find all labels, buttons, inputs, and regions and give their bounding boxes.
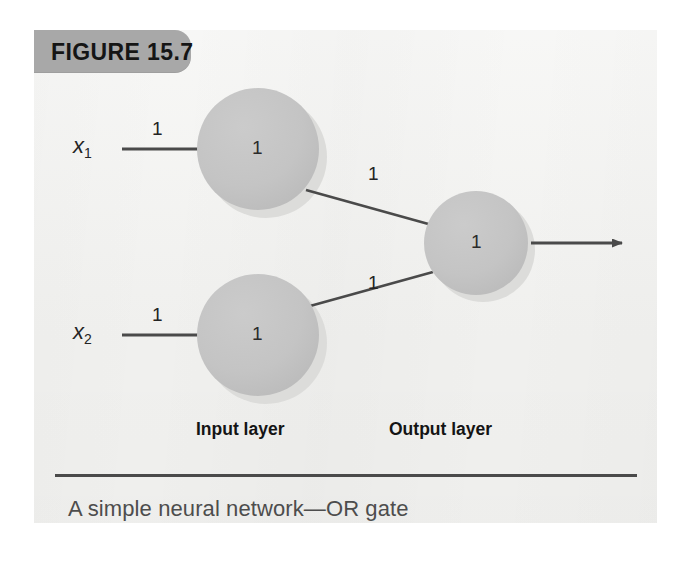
- weight-label-input-node-2-output: 1: [368, 272, 379, 294]
- input-label-x2-subscript: 2: [84, 331, 92, 347]
- input-label-x2: x2: [73, 319, 92, 347]
- input-label-x2-name: x: [73, 319, 84, 344]
- input-layer-label: Input layer: [196, 419, 285, 440]
- figure-number-tag: FIGURE 15.7: [34, 30, 191, 73]
- neural-network-diagram: [34, 30, 657, 523]
- page-canvas: FIGURE 15.7: [0, 0, 690, 568]
- figure-caption: A simple neural network—OR gate: [68, 496, 409, 522]
- input-node-1-value: 1: [252, 137, 263, 159]
- input-label-x1-name: x: [73, 133, 84, 158]
- output-layer-label: Output layer: [389, 419, 492, 440]
- figure-number-label: FIGURE 15.7: [51, 39, 193, 66]
- weight-label-input-node-1-output: 1: [368, 163, 379, 185]
- edge-input-node-1-to-output-node: [306, 190, 432, 225]
- weight-label-x1: 1: [152, 118, 163, 140]
- input-label-x1: x1: [73, 133, 92, 161]
- figure-panel: FIGURE 15.7: [34, 30, 657, 523]
- output-node-value: 1: [471, 231, 482, 253]
- weight-label-x2: 1: [152, 304, 163, 326]
- input-label-x1-subscript: 1: [84, 145, 92, 161]
- input-node-2-value: 1: [252, 323, 263, 345]
- caption-divider-rule: [55, 474, 637, 477]
